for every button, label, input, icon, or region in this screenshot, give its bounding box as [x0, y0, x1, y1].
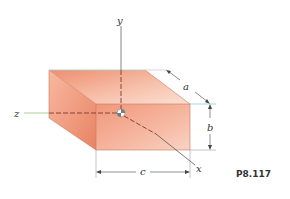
problem-id-label: P8.117: [236, 169, 271, 179]
dimension-c-label: c: [140, 166, 146, 177]
x-axis-label: x: [196, 163, 202, 174]
dimension-a-label: a: [183, 81, 189, 92]
y-axis-label: y: [116, 15, 123, 26]
z-axis-label: z: [13, 108, 20, 119]
rectangular-block-diagram: y z x a b c P8.117: [0, 0, 290, 199]
origin-centroid-icon: [117, 109, 125, 117]
dimension-b-label: b: [207, 122, 213, 133]
